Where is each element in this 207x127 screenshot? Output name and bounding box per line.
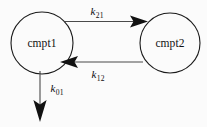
compartment-model-diagram: cmpt1 cmpt2 k21 k12 k01 bbox=[0, 0, 207, 127]
edge-label-k21: k21 bbox=[91, 5, 104, 17]
edge-label-k01: k01 bbox=[51, 82, 64, 94]
edge-label-k12-subscript: 12 bbox=[97, 74, 105, 83]
edge-arrow-k01 bbox=[33, 71, 46, 122]
edge-label-k12: k12 bbox=[92, 68, 105, 80]
edge-label-k01-subscript: 01 bbox=[56, 88, 64, 97]
edge-arrow-k12 bbox=[60, 56, 143, 68]
node-label-cmpt2: cmpt2 bbox=[155, 37, 184, 49]
edge-label-k21-subscript: 21 bbox=[96, 11, 104, 20]
node-label-cmpt1: cmpt1 bbox=[27, 37, 56, 49]
edge-arrow-k21 bbox=[65, 15, 148, 27]
